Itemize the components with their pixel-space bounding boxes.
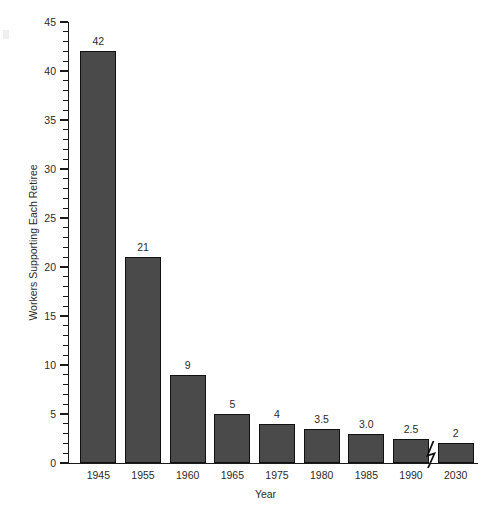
bar bbox=[259, 424, 295, 463]
y-axis-major-tick bbox=[60, 217, 68, 218]
bar-value-label: 21 bbox=[111, 242, 175, 253]
y-axis-major-tick bbox=[60, 315, 68, 316]
bar bbox=[348, 434, 384, 463]
y-axis-major-tick bbox=[60, 168, 68, 169]
y-axis-tick-label: 20 bbox=[12, 262, 56, 273]
bar bbox=[304, 429, 340, 463]
y-axis-major-tick bbox=[60, 364, 68, 365]
x-axis-tick-label: 2030 bbox=[430, 470, 482, 481]
y-axis-tick-label: 30 bbox=[12, 164, 56, 175]
x-axis-title: Year bbox=[68, 489, 463, 500]
bar-value-label: 9 bbox=[156, 360, 220, 371]
y-axis-tick-label: 45 bbox=[12, 17, 56, 28]
axis-break-zigzag-icon bbox=[420, 441, 446, 468]
y-axis-major-tick bbox=[60, 119, 68, 120]
y-axis-title: Workers Supporting Each Retiree bbox=[24, 22, 42, 463]
y-axis-tick-label: 5 bbox=[12, 409, 56, 420]
y-axis-tick-label: 15 bbox=[12, 311, 56, 322]
y-axis-major-tick bbox=[60, 413, 68, 414]
scan-artifact bbox=[3, 30, 9, 39]
y-axis-major-tick bbox=[60, 70, 68, 71]
y-axis-tick-label: 10 bbox=[12, 360, 56, 371]
bar-value-label: 42 bbox=[66, 36, 130, 47]
bar-chart: Workers Supporting Each Retiree 05101520… bbox=[0, 0, 488, 517]
bar bbox=[80, 51, 116, 463]
y-axis-major-tick bbox=[60, 462, 68, 463]
y-axis-tick-label: 0 bbox=[12, 458, 56, 469]
y-axis-major-tick bbox=[60, 21, 68, 22]
bar-value-label: 2 bbox=[424, 428, 488, 439]
bar bbox=[170, 375, 206, 463]
y-axis-tick-label: 40 bbox=[12, 66, 56, 77]
plot-area: 42219543.53.02.52 bbox=[68, 22, 478, 463]
y-axis-major-tick bbox=[60, 266, 68, 267]
y-axis-tick-label: 25 bbox=[12, 213, 56, 224]
bar bbox=[214, 414, 250, 463]
y-axis-tick-label: 35 bbox=[12, 115, 56, 126]
